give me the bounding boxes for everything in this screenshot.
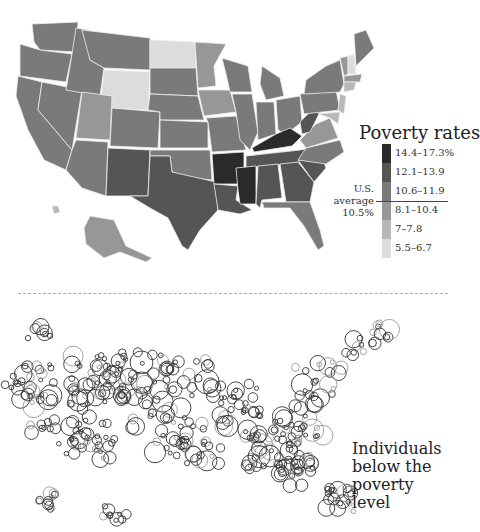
state-ks[interactable] bbox=[160, 120, 208, 148]
poverty-bubble bbox=[103, 400, 107, 404]
legend-swatch bbox=[382, 239, 391, 258]
state-nj[interactable] bbox=[338, 94, 346, 114]
poverty-bubble bbox=[304, 433, 308, 437]
legend-swatch bbox=[382, 182, 391, 201]
poverty-bubble bbox=[104, 435, 108, 439]
average-value: 10.5% bbox=[318, 207, 374, 219]
poverty-bubble bbox=[244, 379, 254, 389]
legend-item: 7–7.8 bbox=[382, 220, 442, 239]
state-ct[interactable] bbox=[344, 82, 356, 92]
state-al[interactable] bbox=[256, 164, 282, 208]
poverty-bubble bbox=[97, 365, 101, 369]
legend-label: 8.1–10.4 bbox=[395, 204, 438, 215]
legend-swatch bbox=[382, 163, 391, 182]
legend-label: 5.5–6.7 bbox=[395, 242, 432, 253]
state-co[interactable] bbox=[110, 108, 160, 148]
poverty-bubble bbox=[277, 418, 283, 424]
average-label: U.S. average 10.5% bbox=[318, 183, 374, 219]
state-nm[interactable] bbox=[106, 148, 150, 196]
poverty-bubble bbox=[30, 400, 34, 404]
state-nd[interactable] bbox=[150, 40, 196, 68]
poverty-bubble bbox=[330, 360, 334, 364]
poverty-bubble bbox=[318, 500, 335, 517]
state-wa[interactable] bbox=[32, 22, 78, 52]
poverty-bubble bbox=[194, 358, 200, 364]
poverty-bubble bbox=[114, 518, 118, 522]
poverty-bubble bbox=[243, 429, 247, 433]
poverty-bubble bbox=[25, 426, 39, 440]
poverty-bubble bbox=[291, 363, 299, 371]
poverty-bubble bbox=[303, 368, 310, 375]
state-sd[interactable] bbox=[150, 68, 198, 96]
poverty-bubble bbox=[168, 451, 172, 455]
poverty-bubble bbox=[171, 398, 191, 418]
poverty-bubble bbox=[92, 360, 108, 376]
poverty-bubble bbox=[210, 454, 214, 458]
poverty-bubble bbox=[228, 406, 234, 412]
poverty-bubble bbox=[271, 427, 277, 433]
state-in[interactable] bbox=[256, 102, 276, 140]
legend-label: 14.4–17.3% bbox=[395, 147, 454, 158]
poverty-bubble bbox=[342, 348, 351, 357]
poverty-bubble bbox=[178, 424, 183, 429]
legend-item: 10.6–11.9 bbox=[382, 182, 442, 201]
poverty-bubble bbox=[289, 446, 297, 454]
poverty-bubble bbox=[10, 373, 16, 379]
section-divider bbox=[18, 293, 448, 294]
poverty-bubble bbox=[118, 380, 122, 384]
state-fl[interactable] bbox=[262, 202, 324, 250]
poverty-bubble bbox=[163, 376, 170, 383]
poverty-bubble bbox=[1, 381, 9, 389]
legend-item: 12.1–13.9 bbox=[382, 163, 442, 182]
poverty-bubble bbox=[248, 393, 258, 403]
state-wi[interactable] bbox=[222, 58, 252, 92]
state-mi[interactable] bbox=[260, 66, 284, 100]
poverty-bubble bbox=[369, 337, 381, 349]
state-ut[interactable] bbox=[76, 92, 112, 140]
poverty-bubble bbox=[173, 356, 185, 368]
state-ny[interactable] bbox=[304, 60, 344, 94]
poverty-bubble bbox=[49, 489, 58, 498]
state-ak[interactable] bbox=[84, 216, 152, 262]
poverty-bubble bbox=[345, 331, 362, 348]
state-ma[interactable] bbox=[344, 74, 362, 82]
poverty-bubble bbox=[213, 457, 225, 469]
poverty-bubble bbox=[46, 395, 57, 406]
average-label-text: U.S. average bbox=[318, 183, 374, 207]
bubble-map-title: Individuals below the poverty level bbox=[352, 440, 447, 512]
poverty-bubble bbox=[216, 444, 224, 452]
legend-swatch bbox=[382, 144, 391, 163]
poverty-bubble bbox=[152, 391, 173, 412]
poverty-bubble bbox=[185, 418, 193, 426]
poverty-bubble bbox=[128, 414, 138, 424]
poverty-bubble bbox=[190, 393, 195, 398]
poverty-bubble bbox=[102, 356, 106, 360]
legend-swatch bbox=[382, 201, 391, 220]
poverty-bubble bbox=[133, 348, 142, 357]
state-az[interactable] bbox=[66, 140, 108, 196]
state-hi[interactable] bbox=[52, 206, 60, 214]
poverty-bubble bbox=[192, 452, 208, 468]
poverty-bubble bbox=[275, 410, 293, 428]
state-nh[interactable] bbox=[348, 54, 356, 74]
poverty-bubble bbox=[320, 376, 337, 393]
state-ia[interactable] bbox=[198, 90, 236, 116]
poverty-bubble bbox=[169, 386, 177, 394]
state-mn[interactable] bbox=[195, 42, 226, 88]
poverty-rate-map bbox=[0, 0, 447, 300]
poverty-bubble bbox=[64, 451, 69, 456]
legend-item: 8.1–10.4 bbox=[382, 201, 442, 220]
poverty-bubble bbox=[103, 504, 115, 516]
poverty-bubble bbox=[122, 510, 131, 519]
state-me[interactable] bbox=[354, 30, 374, 66]
legend-swatch bbox=[382, 220, 391, 239]
title-line: poverty level bbox=[352, 476, 447, 512]
poverty-bubble bbox=[351, 350, 356, 355]
poverty-bubble bbox=[82, 410, 96, 424]
state-ms[interactable] bbox=[236, 166, 256, 204]
poverty-bubble bbox=[212, 407, 228, 423]
poverty-bubble bbox=[254, 386, 258, 390]
poverty-bubble bbox=[142, 400, 151, 409]
legend-item: 14.4–17.3% bbox=[382, 144, 442, 163]
poverty-bubble bbox=[148, 368, 159, 379]
